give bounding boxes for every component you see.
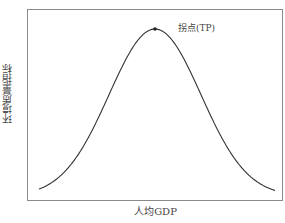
curve-line	[39, 29, 275, 190]
turning-point-marker	[153, 27, 157, 31]
ekc-chart	[0, 0, 285, 223]
y-axis-label: 环境质量指标	[2, 64, 16, 124]
turning-point-label: 拐点(TP)	[178, 21, 215, 34]
plot-frame	[28, 10, 283, 201]
x-axis-label: 人均GDP	[0, 203, 285, 218]
